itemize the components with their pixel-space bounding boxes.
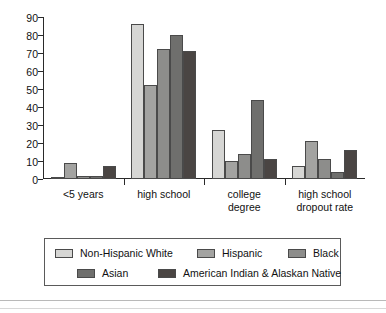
bar[interactable] [157, 49, 170, 179]
x-category-label-line: degree [204, 201, 285, 214]
legend-swatch-icon [77, 269, 95, 278]
y-tick-label: 90 [26, 13, 38, 23]
bar[interactable] [90, 176, 103, 179]
bar-group [285, 17, 366, 179]
bar[interactable] [144, 85, 157, 179]
bar[interactable] [51, 177, 64, 179]
bar[interactable] [131, 24, 144, 179]
chart-legend: Non-Hispanic WhiteHispanicBlack AsianAme… [44, 238, 341, 286]
y-tick-label: 0 [32, 175, 38, 185]
x-category-label-line: high school [285, 188, 366, 201]
legend-item[interactable]: Hispanic [197, 243, 262, 263]
bar-group [124, 17, 205, 179]
bar[interactable] [305, 141, 318, 179]
y-tick-label: 60 [26, 67, 38, 77]
x-category-label: <5 years [43, 188, 124, 201]
bar-group [43, 17, 124, 179]
x-category-label: high school [124, 188, 205, 201]
y-axis-tick-labels: 0102030405060708090 [12, 18, 38, 178]
y-tick-mark [38, 143, 43, 144]
legend-item[interactable]: Black [288, 243, 339, 263]
x-tick-mark [124, 179, 125, 185]
y-tick-mark [38, 107, 43, 108]
y-tick-label: 80 [26, 31, 38, 41]
bar[interactable] [344, 150, 357, 179]
legend-row-1: Non-Hispanic WhiteHispanicBlack [45, 243, 340, 263]
x-axis-category-labels: <5 yearshigh schoolcollegedegreehigh sch… [43, 188, 365, 230]
legend-item[interactable]: Asian [77, 263, 128, 283]
x-category-label-line: high school [124, 188, 205, 201]
legend-row-2: AsianAmerican Indian & Alaskan Native [45, 263, 340, 283]
x-category-label: collegedegree [204, 188, 285, 214]
legend-swatch-icon [288, 249, 306, 258]
y-tick-mark [38, 53, 43, 54]
bar[interactable] [170, 35, 183, 179]
legend-item[interactable]: Non-Hispanic White [55, 243, 173, 263]
y-tick-label: 30 [26, 121, 38, 131]
legend-label: Asian [102, 268, 128, 279]
y-tick-label: 10 [26, 157, 38, 167]
bar[interactable] [64, 163, 77, 179]
legend-item[interactable]: American Indian & Alaskan Native [158, 263, 341, 283]
y-tick-mark [38, 89, 43, 90]
legend-label: Black [313, 248, 339, 259]
x-category-label: high schooldropout rate [285, 188, 366, 214]
legend-swatch-icon [158, 269, 176, 278]
footer-divider-secondary [0, 308, 386, 309]
bar[interactable] [251, 100, 264, 179]
x-tick-mark [285, 179, 286, 185]
legend-label: Hispanic [222, 248, 262, 259]
legend-label: Non-Hispanic White [80, 248, 173, 259]
bars-layer [43, 17, 365, 179]
y-tick-label: 40 [26, 103, 38, 113]
y-tick-mark [38, 125, 43, 126]
bar-chart-figure: 0102030405060708090 <5 yearshigh schoolc… [0, 0, 386, 313]
x-category-label-line: <5 years [43, 188, 124, 201]
bar[interactable] [225, 161, 238, 179]
bar[interactable] [318, 159, 331, 179]
legend-swatch-icon [55, 249, 73, 258]
y-tick-mark [38, 179, 43, 180]
y-tick-mark [38, 17, 43, 18]
bar[interactable] [292, 166, 305, 179]
bar[interactable] [183, 51, 196, 179]
footer-divider [0, 300, 386, 301]
bar[interactable] [264, 159, 277, 179]
y-tick-mark [38, 161, 43, 162]
legend-label: American Indian & Alaskan Native [183, 268, 341, 279]
y-tick-label: 50 [26, 85, 38, 95]
bar[interactable] [238, 154, 251, 179]
bar[interactable] [77, 176, 90, 179]
y-tick-mark [38, 35, 43, 36]
bar[interactable] [331, 172, 344, 179]
bar-group [204, 17, 285, 179]
y-tick-label: 70 [26, 49, 38, 59]
y-tick-mark [38, 71, 43, 72]
y-tick-label: 20 [26, 139, 38, 149]
x-tick-mark [204, 179, 205, 185]
legend-swatch-icon [197, 249, 215, 258]
bar[interactable] [212, 130, 225, 179]
x-category-label-line: dropout rate [285, 201, 366, 214]
plot-area: 0102030405060708090 <5 yearshigh schoolc… [0, 0, 386, 232]
bar[interactable] [103, 166, 116, 179]
x-category-label-line: college [204, 188, 285, 201]
